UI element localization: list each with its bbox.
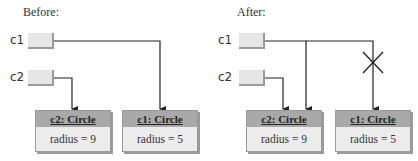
object-header: c1: Circle bbox=[336, 111, 410, 127]
object-field: radius = 9 bbox=[247, 127, 321, 151]
before-var-c2-box bbox=[28, 70, 54, 86]
before-var-c1-label: c1 bbox=[10, 33, 24, 47]
object-field: radius = 5 bbox=[123, 127, 197, 151]
object-header: c1: Circle bbox=[123, 111, 197, 127]
after-object-c1-circle: c1: Circle radius = 5 bbox=[335, 110, 411, 152]
after-var-c1-label: c1 bbox=[218, 33, 232, 47]
object-field: radius = 5 bbox=[336, 127, 410, 151]
after-object-c2-circle: c2: Circle radius = 9 bbox=[246, 110, 322, 152]
after-var-c2-box bbox=[239, 70, 265, 86]
before-c1-reference-arrow bbox=[40, 41, 160, 109]
after-var-c2-label: c2 bbox=[218, 70, 232, 84]
before-object-c2-circle: c2: Circle radius = 9 bbox=[35, 110, 111, 152]
after-var-c1-box bbox=[239, 33, 265, 49]
after-removed-reference-arrow bbox=[306, 41, 373, 109]
before-object-c1-circle: c1: Circle radius = 5 bbox=[122, 110, 198, 152]
object-header: c2: Circle bbox=[36, 111, 110, 127]
after-title: After: bbox=[237, 5, 266, 20]
object-field: radius = 9 bbox=[36, 127, 110, 151]
before-var-c2-label: c2 bbox=[10, 70, 24, 84]
before-var-c1-box bbox=[28, 33, 54, 49]
before-title: Before: bbox=[23, 5, 59, 20]
object-header: c2: Circle bbox=[247, 111, 321, 127]
